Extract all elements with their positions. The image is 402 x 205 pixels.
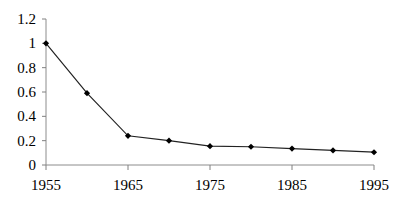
data-point-marker — [289, 145, 295, 151]
data-point-marker — [330, 147, 336, 153]
y-axis-tick-label: 0.6 — [0, 85, 36, 100]
data-point-marker — [371, 149, 377, 155]
y-axis-tick-label: 0 — [0, 158, 36, 173]
chart-container: 00.20.40.60.811.2 19551965197519851995 — [0, 0, 402, 205]
x-axis-ticks — [46, 165, 374, 170]
x-axis-tick-label: 1995 — [359, 178, 389, 193]
y-axis-tick-label: 0.8 — [0, 60, 36, 75]
x-axis-tick-label: 1955 — [31, 178, 61, 193]
chart-plot-area — [0, 0, 402, 205]
series-markers — [43, 40, 377, 155]
y-axis-tick-label: 0.4 — [0, 109, 36, 124]
y-axis-tick-label: 1 — [0, 36, 36, 51]
x-axis-tick-label: 1965 — [113, 178, 143, 193]
y-axis-tick-label: 0.2 — [0, 133, 36, 148]
series-line — [46, 43, 374, 152]
x-axis-tick-label: 1975 — [195, 178, 225, 193]
data-point-marker — [248, 144, 254, 150]
data-point-marker — [207, 143, 213, 149]
x-axis-tick-label: 1985 — [277, 178, 307, 193]
data-point-marker — [166, 138, 172, 144]
y-axis-tick-label: 1.2 — [0, 12, 36, 27]
